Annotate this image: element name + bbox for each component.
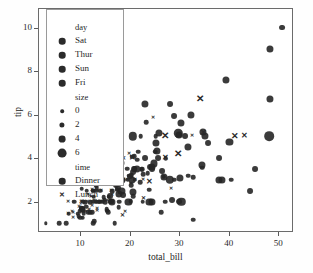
- legend-label-4[interactable]: 4: [75, 133, 80, 143]
- legend-box[interactable]: daySatThurSunFrisize0246timeDinner✕Lunch: [46, 9, 124, 186]
- data-point-dinner: [117, 199, 122, 204]
- data-point-lunch: ✕: [196, 94, 204, 104]
- y-tick-mark: [34, 202, 38, 203]
- data-point-dinner: [149, 166, 155, 172]
- legend-group-title-day: day: [75, 22, 87, 32]
- legend-label-6[interactable]: 6: [75, 147, 80, 157]
- data-point-dinner: [144, 120, 149, 125]
- data-point-dinner: [138, 180, 143, 185]
- legend-marker-dot: [59, 178, 66, 185]
- y-tick-label: 4: [6, 152, 32, 162]
- data-point-lunch: ✕: [72, 201, 75, 205]
- legend-label-Fri[interactable]: Fri: [75, 77, 86, 87]
- legend-marker-dot: [59, 122, 64, 127]
- x-tick-label: 10: [66, 238, 94, 248]
- data-point-dinner: [125, 166, 130, 171]
- data-point-dinner: [159, 168, 165, 174]
- data-point-dinner: [106, 210, 111, 215]
- legend-label-Dinner[interactable]: Dinner: [75, 175, 100, 185]
- data-point-dinner: [78, 216, 83, 221]
- data-point-lunch: ✕: [71, 215, 75, 220]
- x-tick-mark: [130, 232, 131, 236]
- x-tick-mark: [278, 232, 279, 236]
- data-point-dinner: [163, 199, 168, 204]
- data-point-dinner: [171, 113, 177, 119]
- data-point-dinner: [117, 205, 122, 210]
- data-point-dinner: [205, 141, 211, 147]
- x-tick-label: 50: [264, 238, 292, 248]
- data-point-lunch: ✕: [241, 133, 248, 141]
- x-tick-label: 20: [116, 238, 144, 248]
- legend-label-Thur[interactable]: Thur: [75, 49, 93, 59]
- y-tick-mark: [34, 158, 38, 159]
- data-point-dinner: [279, 25, 285, 31]
- data-point-dinner: [131, 194, 136, 199]
- data-point-dinner: [252, 166, 258, 172]
- data-point-dinner: [64, 221, 69, 226]
- data-point-lunch: ✕: [190, 134, 194, 139]
- data-point-dinner: [167, 101, 173, 107]
- data-point-lunch: ✕: [95, 208, 99, 213]
- data-point-lunch: ✕: [200, 129, 207, 137]
- legend-group-title-time: time: [75, 162, 90, 172]
- legend-label-Sat[interactable]: Sat: [75, 35, 87, 45]
- legend-marker-dot: [60, 109, 64, 113]
- legend-label-2[interactable]: 2: [75, 119, 80, 129]
- y-axis-label: tip: [13, 92, 23, 132]
- y-tick-label: 10: [6, 22, 32, 32]
- data-point-lunch: ✕: [93, 199, 97, 204]
- data-point-dinner: [131, 166, 137, 172]
- data-point-dinner: [100, 199, 105, 204]
- data-point-lunch: ✕: [105, 199, 109, 204]
- data-point-lunch: ✕: [146, 178, 153, 186]
- legend-label-Lunch[interactable]: Lunch: [75, 189, 98, 199]
- legend-marker-dot: [59, 136, 66, 143]
- data-point-lunch: ✕: [109, 188, 113, 193]
- data-point-dinner: [182, 133, 188, 139]
- x-tick-mark: [229, 232, 230, 236]
- data-point-dinner: [91, 221, 96, 226]
- x-axis-label: total_bill: [38, 252, 293, 262]
- x-tick-mark: [80, 232, 81, 236]
- data-point-lunch: ✕: [151, 115, 155, 120]
- x-tick-label: 40: [215, 238, 243, 248]
- data-point-dinner: [120, 192, 126, 198]
- data-point-lunch: ✕: [66, 199, 70, 204]
- data-point-dinner: [67, 211, 72, 216]
- data-point-dinner: [191, 217, 196, 222]
- data-point-dinner: [163, 156, 168, 161]
- data-point-dinner: [191, 175, 196, 180]
- data-point-lunch: ✕: [129, 154, 136, 162]
- data-point-dinner: [82, 211, 87, 216]
- data-point-lunch: ✕: [110, 193, 114, 198]
- data-point-dinner: [57, 221, 62, 226]
- y-tick-mark: [34, 115, 38, 116]
- data-point-dinner: [169, 198, 175, 204]
- y-tick-mark: [34, 71, 38, 72]
- data-point-lunch: ✕: [169, 187, 173, 192]
- data-point-dinner: [112, 221, 117, 226]
- y-tick-label: 8: [6, 65, 32, 75]
- data-point-lunch: ✕: [231, 132, 239, 141]
- data-point-dinner: [176, 199, 182, 205]
- data-point-dinner: [229, 178, 234, 183]
- legend-label-0[interactable]: 0: [75, 105, 80, 115]
- legend-marker-dot: [59, 80, 66, 87]
- data-point-dinner: [216, 155, 222, 161]
- data-point-dinner: [86, 210, 91, 215]
- y-tick-mark: [34, 28, 38, 29]
- legend-marker-dot: [58, 149, 67, 158]
- legend-label-Sun[interactable]: Sun: [75, 63, 89, 73]
- legend-marker-x: ✕: [59, 191, 65, 199]
- data-point-dinner: [264, 132, 274, 142]
- x-tick-mark: [179, 232, 180, 236]
- data-point-dinner: [141, 199, 146, 204]
- data-point-lunch: ✕: [174, 149, 182, 159]
- data-point-dinner: [147, 187, 152, 192]
- data-point-dinner: [153, 149, 158, 154]
- data-point-lunch: ✕: [79, 199, 83, 204]
- legend-marker-dot: [59, 66, 66, 73]
- data-point-dinner: [159, 210, 164, 215]
- data-point-dinner: [136, 149, 141, 154]
- legend-marker-dot: [59, 38, 66, 45]
